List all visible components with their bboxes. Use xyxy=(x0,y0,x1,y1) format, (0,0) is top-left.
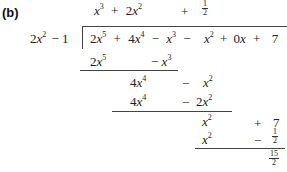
step2-rule xyxy=(112,111,232,112)
quotient-term-3: 12 xyxy=(202,0,208,17)
quotient: x3 + 2x2 xyxy=(94,4,142,17)
step1-term2: − x3 xyxy=(151,55,171,68)
divisor: 2x2 − 1 xyxy=(30,32,69,45)
step3-term1: x2 xyxy=(202,133,212,146)
division-bar xyxy=(82,26,287,27)
rem2-term1: x2 xyxy=(202,115,212,128)
rem2-op: + xyxy=(254,117,261,130)
rem1-op: − xyxy=(182,77,189,90)
step2-op: − xyxy=(182,96,189,109)
step3-op: − xyxy=(254,134,261,147)
step2-term1: 4x4 xyxy=(130,95,146,108)
step3-term2: 12 xyxy=(272,128,278,145)
rem1-term1: 4x4 xyxy=(130,76,146,89)
step2-term2: 2x2 xyxy=(196,95,212,108)
part-label: (b) xyxy=(2,6,19,19)
division-bracket xyxy=(82,26,83,49)
quotient-plus: + xyxy=(181,5,188,18)
final-remainder: 152 xyxy=(269,150,279,167)
quotient-term-2: 2x2 xyxy=(126,3,142,18)
dividend: 2x5 + 4x4 − x3 − x2 + 0x + 7 xyxy=(90,32,278,45)
step1-rule xyxy=(80,70,178,71)
rem1-term2: x2 xyxy=(203,76,213,89)
step1-term1: 2x5 xyxy=(90,55,106,68)
quotient-term-1: x3 xyxy=(94,3,104,18)
